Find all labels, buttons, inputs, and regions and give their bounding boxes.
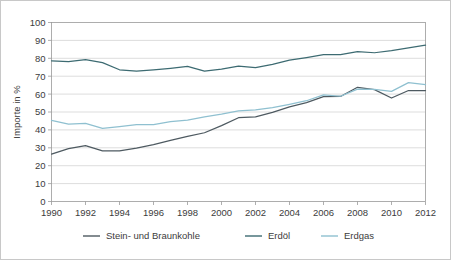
x-axis-tick-label: 1996 xyxy=(143,207,164,218)
x-axis-tick-label: 1994 xyxy=(109,207,130,218)
x-axis-tick-label: 2006 xyxy=(313,207,334,218)
chart-figure: 0102030405060708090100 19901992199419961… xyxy=(0,0,451,260)
line-chart: 0102030405060708090100 19901992199419961… xyxy=(1,1,451,260)
y-axis-tick-label: 60 xyxy=(35,89,46,100)
y-axis-tick-label: 30 xyxy=(35,142,46,153)
y-axis-tick-label: 80 xyxy=(35,53,46,64)
series-line-2 xyxy=(52,83,426,129)
series-line-0 xyxy=(52,87,426,154)
tick-marks-group xyxy=(48,23,426,206)
x-axis-tick-labels: 1990199219941996199820002002200420062008… xyxy=(41,207,436,218)
y-axis-tick-label: 50 xyxy=(35,106,46,117)
data-series-group xyxy=(52,45,426,154)
x-axis-tick-label: 2000 xyxy=(211,207,232,218)
y-axis-tick-label: 70 xyxy=(35,71,46,82)
x-axis-tick-label: 2002 xyxy=(245,207,266,218)
legend-label-2: Erdgas xyxy=(344,230,374,241)
x-axis-tick-label: 2012 xyxy=(415,207,436,218)
y-axis-tick-label: 100 xyxy=(30,17,46,28)
y-axis-tick-label: 0 xyxy=(40,196,45,207)
gridlines-group xyxy=(52,40,426,183)
x-axis-tick-label: 2008 xyxy=(347,207,368,218)
x-axis-tick-label: 1998 xyxy=(177,207,198,218)
x-axis-tick-label: 2004 xyxy=(279,207,300,218)
legend-label-1: Erdöl xyxy=(268,230,290,241)
x-axis-tick-label: 1990 xyxy=(41,207,62,218)
y-axis-tick-label: 20 xyxy=(35,160,46,171)
chart-legend: Stein- und BraunkohleErdölErdgas xyxy=(83,230,374,241)
y-axis-tick-label: 90 xyxy=(35,35,46,46)
y-axis-title: Importe in % xyxy=(11,85,22,139)
legend-label-0: Stein- und Braunkohle xyxy=(106,230,200,241)
y-axis-tick-label: 10 xyxy=(35,178,46,189)
x-axis-tick-label: 1992 xyxy=(75,207,96,218)
x-axis-tick-label: 2010 xyxy=(381,207,402,218)
y-axis-tick-labels: 0102030405060708090100 xyxy=(30,17,46,207)
y-axis-tick-label: 40 xyxy=(35,124,46,135)
